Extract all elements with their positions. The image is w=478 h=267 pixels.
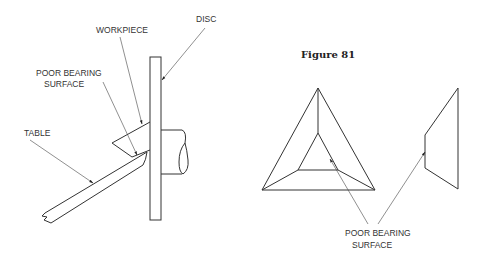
workpiece bbox=[112, 122, 150, 157]
poor-bearing-leader-side bbox=[378, 152, 425, 224]
left-diagram: DISC WORKPIECE POOR BEARING SURFACE TABL… bbox=[24, 14, 216, 223]
poor-bearing-label-left-2: SURFACE bbox=[44, 79, 84, 89]
pyramid-side-view bbox=[425, 88, 458, 189]
table bbox=[42, 152, 147, 223]
poor-bearing-leader-left bbox=[103, 82, 137, 155]
spindle bbox=[161, 130, 188, 174]
poor-bearing-leader-top bbox=[330, 159, 368, 224]
poor-bearing-label-right-2: SURFACE bbox=[352, 240, 392, 250]
poor-bearing-label-left-1: POOR BEARING bbox=[36, 68, 102, 78]
figure-canvas: DISC WORKPIECE POOR BEARING SURFACE TABL… bbox=[0, 0, 478, 267]
figure-title: Figure 81 bbox=[301, 49, 355, 60]
disc bbox=[150, 57, 161, 220]
table-leader bbox=[30, 140, 93, 183]
table-label: TABLE bbox=[24, 128, 51, 138]
disc-leader bbox=[162, 28, 205, 80]
pyramid-top-view bbox=[262, 88, 375, 190]
workpiece-leader bbox=[120, 37, 142, 124]
poor-bearing-label-right-1: POOR BEARING bbox=[345, 228, 411, 238]
disc-label: DISC bbox=[196, 14, 216, 24]
workpiece-label: WORKPIECE bbox=[96, 25, 148, 35]
